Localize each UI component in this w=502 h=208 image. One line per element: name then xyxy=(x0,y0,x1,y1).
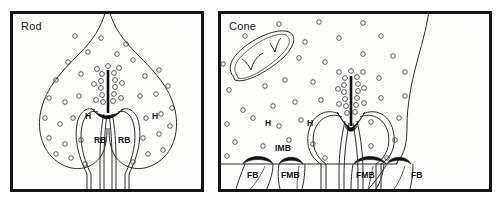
rod-label-rb-left: RB xyxy=(94,135,106,145)
cone-pedicle-drawing xyxy=(221,14,489,189)
panel-cone: Cone xyxy=(218,11,492,192)
cone-label-fmb-left: FMB xyxy=(281,170,300,180)
rod-spherule-drawing xyxy=(13,14,201,189)
rod-label-h-right: H xyxy=(152,111,158,121)
cone-label-fb-right: FB xyxy=(411,170,423,180)
cone-label-fb-left: FB xyxy=(247,170,259,180)
rod-label-rb-right: RB xyxy=(118,135,130,145)
rod-label-h-left: H xyxy=(85,111,91,121)
cone-label-fmb-right: FMB xyxy=(356,170,375,180)
cone-label-h-left: H xyxy=(265,118,271,128)
panel-rod: Rod xyxy=(10,11,204,192)
figure-canvas: Rod xyxy=(0,0,502,208)
cone-label-h-right: H xyxy=(307,118,313,128)
cone-label-imb: IMB xyxy=(275,143,291,153)
